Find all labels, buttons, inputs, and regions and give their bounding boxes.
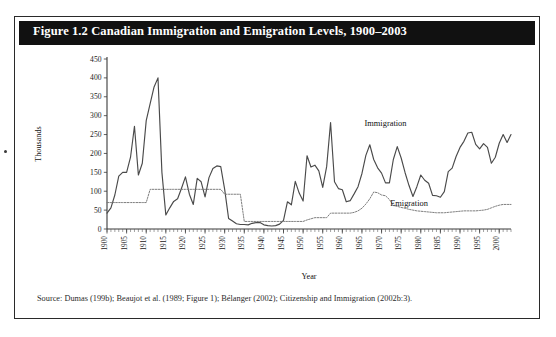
svg-text:1975: 1975 [394, 236, 403, 251]
svg-text:1960: 1960 [335, 236, 344, 251]
svg-text:1995: 1995 [473, 236, 482, 251]
y-axis: 050100150200250300350400450 [90, 55, 107, 234]
series-label-immigration: Immigration [365, 119, 408, 128]
page-margin-dot [4, 150, 7, 153]
x-axis-title: Year [301, 272, 316, 281]
svg-text:1980: 1980 [414, 236, 423, 251]
svg-text:1905: 1905 [120, 236, 129, 251]
svg-text:100: 100 [90, 187, 102, 196]
svg-text:0: 0 [98, 225, 102, 234]
source-citation: Source: Dumas (199b); Beaujot et al. (19… [37, 294, 527, 303]
svg-text:1950: 1950 [296, 236, 305, 251]
svg-text:1985: 1985 [433, 236, 442, 251]
svg-text:1935: 1935 [237, 236, 246, 251]
svg-text:2000: 2000 [492, 236, 501, 251]
svg-text:1915: 1915 [159, 236, 168, 251]
svg-text:1965: 1965 [355, 236, 364, 251]
series-label-emigration: Emigration [390, 199, 428, 208]
figure-title-bar: Figure 1.2 Canadian Immigration and Emig… [19, 21, 535, 45]
svg-text:1900: 1900 [100, 236, 109, 251]
svg-text:1925: 1925 [198, 236, 207, 251]
svg-text:1990: 1990 [453, 236, 462, 251]
series-label-group: ImmigrationEmigration [365, 119, 429, 207]
svg-text:150: 150 [90, 168, 102, 177]
figure-container: Figure 1.2 Canadian Immigration and Emig… [14, 16, 540, 319]
y-axis-title: Thousands [34, 126, 43, 161]
data-series-group [107, 78, 511, 226]
svg-text:1930: 1930 [218, 236, 227, 251]
series-line-emigration [107, 189, 511, 221]
svg-text:300: 300 [90, 111, 102, 120]
svg-text:50: 50 [94, 206, 102, 215]
svg-text:350: 350 [90, 92, 102, 101]
svg-text:400: 400 [90, 73, 102, 82]
svg-text:450: 450 [90, 55, 102, 64]
svg-text:200: 200 [90, 149, 102, 158]
chart-plot-area: 050100150200250300350400450 190019051910… [15, 47, 541, 287]
immigration-emigration-line-chart: 050100150200250300350400450 190019051910… [15, 47, 541, 287]
figure-title: Figure 1.2 Canadian Immigration and Emig… [33, 24, 407, 39]
x-axis: 1900190519101915192019251930193519401945… [100, 229, 511, 251]
svg-text:250: 250 [90, 130, 102, 139]
series-line-immigration [107, 78, 511, 226]
svg-text:1920: 1920 [178, 236, 187, 251]
svg-text:1970: 1970 [375, 236, 384, 251]
svg-text:1945: 1945 [277, 236, 286, 251]
svg-text:1955: 1955 [316, 236, 325, 251]
svg-text:1940: 1940 [257, 236, 266, 251]
svg-text:1910: 1910 [139, 236, 148, 251]
